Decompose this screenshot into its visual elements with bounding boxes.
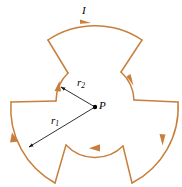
inner-radius-subscript: 2	[81, 81, 85, 90]
outer-arc-right	[132, 102, 178, 183]
radial-segment-b2	[123, 146, 132, 183]
center-point-label: P	[99, 100, 106, 111]
radial-segment-c2	[11, 101, 56, 102]
radial-segment-c1	[55, 145, 66, 183]
outer-arc-left	[11, 102, 55, 183]
outer-arc-top	[48, 26, 142, 40]
wire-loop	[11, 26, 178, 183]
vector-r2	[61, 87, 95, 107]
current-arrow-right-outer	[160, 134, 166, 146]
vector-r1	[29, 107, 95, 147]
radial-segment-b1	[134, 100, 178, 102]
outer-radius-label: r1	[51, 115, 59, 128]
radial-segment-a2	[121, 40, 142, 72]
current-arrow-bottom-inner	[89, 144, 100, 151]
radius-vectors	[29, 87, 95, 147]
current-label: I	[82, 5, 86, 16]
center-point-marker	[93, 105, 97, 109]
current-loop-diagram	[0, 0, 182, 187]
current-arrow-top-outer	[80, 20, 91, 24]
outer-radius-subscript: 1	[55, 119, 59, 128]
radial-segment-a1	[48, 40, 68, 73]
inner-radius-label: r2	[77, 77, 85, 90]
physics-figure: I P r1 r2	[0, 0, 182, 187]
